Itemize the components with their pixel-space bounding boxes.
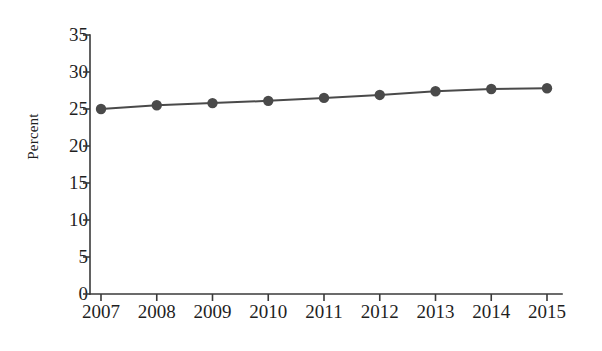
data-point-marker: [375, 90, 385, 100]
x-tick-label: 2015: [512, 302, 582, 322]
line-chart: Percent 05101520253035 20072008200920102…: [0, 0, 602, 351]
data-point-marker: [207, 98, 217, 108]
data-markers: [96, 83, 552, 114]
y-axis-ticks: [83, 35, 90, 294]
data-point-marker: [319, 93, 329, 103]
data-point-marker: [152, 100, 162, 110]
plot-area: [0, 0, 602, 351]
axis-lines: [90, 35, 562, 294]
data-point-marker: [430, 86, 440, 96]
data-point-marker: [486, 84, 496, 94]
data-point-marker: [542, 83, 552, 93]
data-point-marker: [96, 104, 106, 114]
data-point-marker: [263, 96, 273, 106]
x-axis-ticks: [101, 294, 547, 301]
